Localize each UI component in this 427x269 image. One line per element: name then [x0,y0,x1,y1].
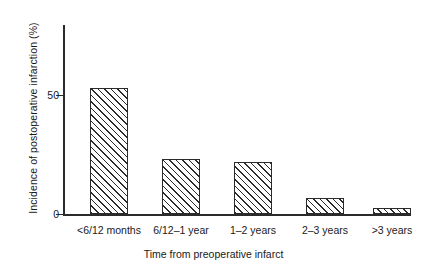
bar-0 [90,88,128,214]
x-category-label-3: 2–3 years [302,224,348,236]
bar-1 [162,159,200,214]
bar-3 [306,198,344,214]
bar-group [63,25,411,214]
x-axis-line [63,214,411,216]
y-axis-title: Incidence of postoperative infarction (%… [27,3,39,233]
x-category-label-0: <6/12 months [77,224,141,236]
x-axis-title: Time from preoperative infarct [0,248,427,260]
bar-4 [373,208,411,214]
x-category-label-1: 6/12–1 year [153,224,208,236]
y-tick-label: 50 [47,89,59,101]
bar-2 [234,162,272,214]
plot-area: 0 50 [63,25,411,216]
x-category-label-2: 1–2 years [230,224,276,236]
x-category-label-4: >3 years [372,224,413,236]
y-tick-label: 0 [53,208,59,220]
bar-chart-figure: Incidence of postoperative infarction (%… [0,0,427,269]
